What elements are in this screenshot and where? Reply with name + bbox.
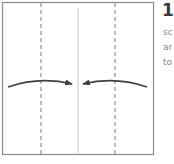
- origami-fold-diagram: [0, 0, 174, 164]
- step-text-line-1: sc: [163, 27, 173, 37]
- step-text-line-2: ar: [163, 42, 172, 52]
- step-text-line-3: to: [163, 57, 172, 67]
- step-number: 1: [162, 0, 174, 20]
